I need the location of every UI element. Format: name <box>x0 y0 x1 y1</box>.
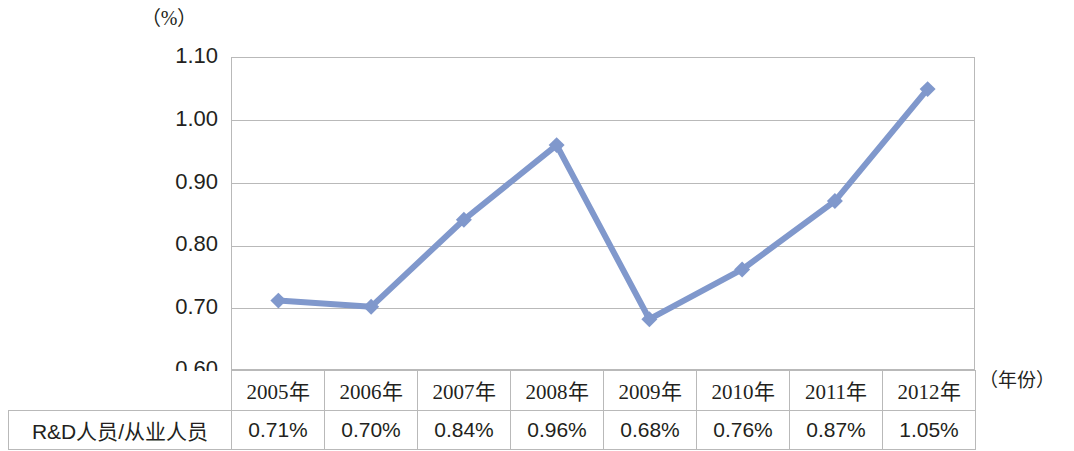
table-cell-value: 1.05% <box>883 410 976 450</box>
table-cell-value: 0.96% <box>511 410 604 450</box>
table-header-year: 2012年 <box>883 371 976 411</box>
plot-area <box>231 57 975 370</box>
table-header-year: 2010年 <box>697 371 790 411</box>
table-cell-value: 0.68% <box>604 410 697 450</box>
y-tick-label: 0.70 <box>96 294 218 320</box>
y-axis-unit-label: （%） <box>114 2 224 31</box>
table-row-label: R&D人员/从业人员 <box>9 410 232 450</box>
table-header-year: 2007年 <box>418 371 511 411</box>
y-tick-label: 0.90 <box>96 169 218 195</box>
series-markers <box>270 81 935 327</box>
table-cell-value: 0.76% <box>697 410 790 450</box>
table-header-year: 2006年 <box>325 371 418 411</box>
y-tick-label: 1.00 <box>96 106 218 132</box>
y-tick-label: 1.10 <box>96 43 218 69</box>
table-header-year: 2009年 <box>604 371 697 411</box>
x-axis-caption: （年份） <box>979 365 1055 392</box>
table-cell-value: 0.84% <box>418 410 511 450</box>
table-row-years: 2005年 2006年 2007年 2008年 2009年 2010年 2011… <box>9 371 976 411</box>
table-header-year: 2005年 <box>232 371 325 411</box>
table-cell-value: 0.70% <box>325 410 418 450</box>
table-corner-blank <box>9 371 232 411</box>
table-header-year: 2011年 <box>790 371 883 411</box>
table-cell-value: 0.71% <box>232 410 325 450</box>
table-header-year: 2008年 <box>511 371 604 411</box>
table-cell-value: 0.87% <box>790 410 883 450</box>
table-row-values: R&D人员/从业人员 0.71% 0.70% 0.84% 0.96% 0.68%… <box>9 410 976 450</box>
data-table: 2005年 2006年 2007年 2008年 2009年 2010年 2011… <box>8 370 976 450</box>
data-table-wrapper: 2005年 2006年 2007年 2008年 2009年 2010年 2011… <box>8 370 975 450</box>
data-point-marker <box>270 293 286 309</box>
line-series-svg <box>232 58 974 369</box>
y-tick-label: 0.80 <box>96 231 218 257</box>
chart-page: （%） 1.10 1.00 0.90 0.80 0.70 0.60 （年份） <box>0 0 1074 451</box>
